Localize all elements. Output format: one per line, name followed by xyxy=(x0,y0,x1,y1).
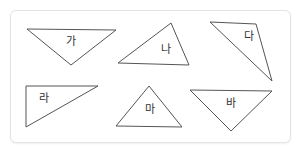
triangles-figure: 가 나 다 라 마 바 xyxy=(0,0,296,147)
triangle-label: 라 xyxy=(39,92,49,105)
triangle-na: 나 xyxy=(118,23,189,65)
triangle-ra: 라 xyxy=(26,86,98,127)
triangle-ma: 마 xyxy=(116,86,182,127)
triangle-shape xyxy=(210,22,272,81)
triangle-label: 마 xyxy=(145,103,155,116)
triangle-label: 나 xyxy=(161,43,171,56)
triangle-label: 바 xyxy=(226,97,236,110)
triangle-shape xyxy=(118,23,189,65)
triangle-label: 가 xyxy=(66,35,76,48)
triangle-ga: 가 xyxy=(27,29,116,65)
triangle-shape xyxy=(26,86,98,127)
triangle-da: 다 xyxy=(210,22,272,81)
triangle-ba: 바 xyxy=(190,90,272,131)
triangle-label: 다 xyxy=(244,30,254,43)
